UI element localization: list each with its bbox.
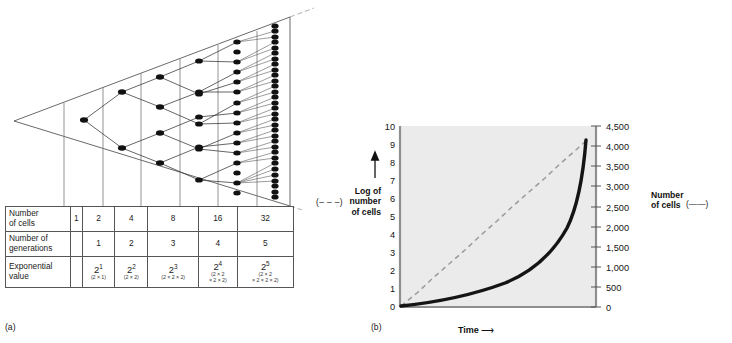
cell-dots <box>80 23 279 199</box>
generation-gen4: 4 <box>199 232 238 257</box>
expansion-3: (2 × 2 × 2) <box>148 275 198 281</box>
panel-b-tag: (b) <box>371 322 382 332</box>
exponential-gen4: 24 (2 × 2 × 2 × 2) <box>199 257 238 288</box>
svg-text:3,500: 3,500 <box>606 162 629 172</box>
row-label-line1: Exponential <box>9 261 52 271</box>
svg-text:7: 7 <box>390 176 395 186</box>
svg-text:3: 3 <box>390 248 395 258</box>
left-axis-label-line2: number <box>349 196 381 206</box>
cell-count-gen5: 32 <box>237 207 293 232</box>
triangle-outline <box>14 17 290 206</box>
svg-text:4,000: 4,000 <box>606 142 629 152</box>
cell-count-gen0: 1 <box>71 207 83 232</box>
binary-division-tree <box>0 0 320 210</box>
table-row-number-of-generations: Number of generations 1 2 3 4 5 <box>6 232 294 257</box>
generation-gen1: 1 <box>82 232 115 257</box>
svg-text:500: 500 <box>606 283 621 293</box>
row-label-line2: value <box>9 271 29 281</box>
x-axis-label: Time ⟶ <box>458 325 494 336</box>
exponential-gen3: 23 (2 × 2 × 2) <box>148 257 199 288</box>
exponential-gen2: 22 (2 × 2) <box>115 257 148 288</box>
svg-text:9: 9 <box>390 140 395 150</box>
exponent-5: 5 <box>266 260 270 267</box>
exponential-growth-chart: 0 1 2 3 4 5 6 7 8 9 10 0 500 1,000 1,500… <box>320 0 732 343</box>
cell-count-gen1: 2 <box>82 207 115 232</box>
up-arrow-icon <box>372 152 379 178</box>
exponential-gen1: 21 (2 × 1) <box>82 257 115 288</box>
generation-column-dividers <box>64 31 257 206</box>
cell-count-gen2: 4 <box>115 207 148 232</box>
right-axis-tick-labels: 0 500 1,000 1,500 2,000 2,500 3,000 3,50… <box>606 122 629 313</box>
panel-a-cell-division-diagram: Number of cells 1 2 4 8 16 32 Number of … <box>0 0 320 343</box>
exponent-1: 1 <box>99 263 103 270</box>
expansion-2: (2 × 2) <box>115 275 147 281</box>
svg-text:4: 4 <box>390 230 395 240</box>
x-axis-arrow-icon: ⟶ <box>481 325 494 335</box>
svg-text:4,500: 4,500 <box>606 122 629 132</box>
row-label-exponential-value: Exponential value <box>6 257 71 288</box>
row-label-line2: of cells <box>9 218 35 228</box>
x-axis-label-text: Time <box>458 325 479 335</box>
svg-text:8: 8 <box>390 158 395 168</box>
svg-text:2: 2 <box>390 266 395 276</box>
plot-background <box>400 126 596 307</box>
svg-text:2,000: 2,000 <box>606 223 629 233</box>
panel-b-growth-chart: 0 1 2 3 4 5 6 7 8 9 10 0 500 1,000 1,500… <box>320 0 732 343</box>
expansion-5-line2: × 2 × 2 × 2) <box>238 278 293 284</box>
left-axis-label-line3: of cells <box>351 207 381 217</box>
svg-text:10: 10 <box>385 122 395 132</box>
row-label-number-of-generations: Number of generations <box>6 232 71 257</box>
svg-text:1: 1 <box>390 284 395 294</box>
generation-gen2: 2 <box>115 232 148 257</box>
svg-text:6: 6 <box>390 194 395 204</box>
left-axis-label-line1: Log of <box>355 186 381 196</box>
panel-a-tag: (a) <box>5 322 16 332</box>
exponential-gen0 <box>71 257 83 288</box>
cell-count-gen4: 16 <box>199 207 238 232</box>
solid-line-legend: (——) <box>686 199 708 209</box>
svg-text:2,500: 2,500 <box>606 203 629 213</box>
table-row-number-of-cells: Number of cells 1 2 4 8 16 32 <box>6 207 294 232</box>
final-generation-connectors <box>237 31 275 183</box>
right-axis-label-line2: of cells <box>651 200 681 210</box>
row-label-line2: generations <box>9 243 52 253</box>
row-label-line1: Number <box>9 208 39 218</box>
generation-gen5: 5 <box>237 232 293 257</box>
svg-text:5: 5 <box>390 212 395 222</box>
cell-count-gen3: 8 <box>148 207 199 232</box>
right-axis-label-line1: Number <box>651 190 683 200</box>
svg-text:0: 0 <box>390 302 395 312</box>
exponent-4: 4 <box>219 260 223 267</box>
expansion-1: (2 × 1) <box>83 275 115 281</box>
svg-text:0: 0 <box>606 303 611 313</box>
exponent-2: 2 <box>132 263 136 270</box>
left-axis-tick-labels: 0 1 2 3 4 5 6 7 8 9 10 <box>385 122 395 312</box>
exponent-3: 3 <box>174 263 178 270</box>
cell-division-table: Number of cells 1 2 4 8 16 32 Number of … <box>5 206 294 288</box>
dashed-line-legend: (– – –) <box>316 197 343 207</box>
svg-text:1,000: 1,000 <box>606 263 629 273</box>
svg-text:3,000: 3,000 <box>606 182 629 192</box>
row-label-line1: Number of <box>9 233 48 243</box>
triangle-dashed-extension <box>290 8 314 210</box>
row-label-number-of-cells: Number of cells <box>6 207 71 232</box>
expansion-4-line2: × 2 × 2) <box>199 278 237 284</box>
table-row-exponential-value: Exponential value 21 (2 × 1) 22 (2 × 2) … <box>6 257 294 288</box>
generation-gen0 <box>71 232 83 257</box>
generation-gen3: 3 <box>148 232 199 257</box>
svg-text:1,500: 1,500 <box>606 243 629 253</box>
exponential-gen5: 25 (2 × 2 × 2 × 2 × 2) <box>237 257 293 288</box>
